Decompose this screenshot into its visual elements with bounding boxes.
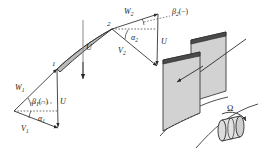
inlet-relative-angle-label: β1(−) [31, 97, 48, 107]
inlet-velocity-triangle [14, 69, 58, 128]
rotation-speed-symbol: Ω [227, 103, 233, 113]
outlet-relative-angle-label: β2(−) [171, 7, 188, 17]
cascade-blade-section [57, 29, 112, 72]
inlet-absolute-velocity-label: V1 [21, 124, 29, 134]
rotor-blade-front [163, 52, 203, 131]
velocity-triangle-figure: 1 2 U W2 V2 U β2(−) α2 [0, 0, 264, 151]
blade-profile-shape [57, 29, 112, 72]
outlet-absolute-velocity-label: V2 [118, 46, 126, 56]
inlet-absolute-angle-label: α1 [38, 114, 45, 124]
inlet-blade-speed-vector [57, 69, 58, 127]
outlet-absolute-angle-arc [125, 30, 128, 39]
outlet-absolute-angle-label: α2 [131, 33, 138, 43]
station-label-inlet: 1 [52, 60, 56, 68]
inlet-relative-velocity-label: W1 [15, 83, 25, 93]
rotor-shaft-far-face [236, 116, 244, 137]
outlet-relative-angle-arc [142, 19, 144, 25]
outlet-blade-speed-vector [157, 14, 158, 65]
rotor-shaft [218, 112, 246, 141]
rotor-shaft-end-face [218, 120, 226, 141]
outlet-relative-velocity-label: W2 [124, 7, 134, 17]
inlet-relative-angle-arc [28, 98, 31, 106]
inlet-blade-speed-label: U [60, 97, 67, 106]
station-label-outlet: 2 [107, 20, 111, 28]
rotor-assembly: Ω [160, 32, 258, 148]
outlet-blade-speed-label: U [161, 37, 168, 46]
figure-canvas: 1 2 U W2 V2 U β2(−) α2 [0, 0, 264, 151]
outlet-relative-velocity-vector [112, 14, 158, 29]
